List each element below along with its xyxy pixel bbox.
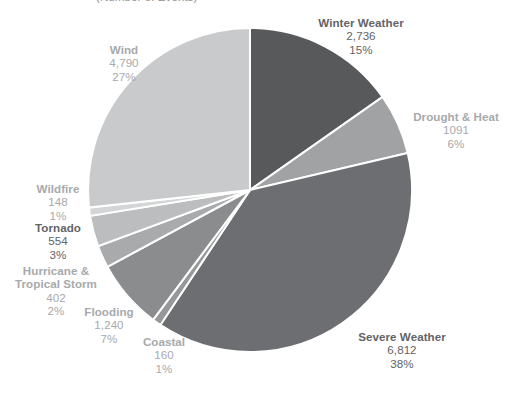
slice-label-hurricane-and-tropical-storm: Hurricane & Tropical Storm 402 2% [4, 264, 108, 318]
slice-label-percent: 2% [4, 304, 108, 317]
slice-label-wildfire: Wildfire 148 1% [18, 182, 98, 222]
slice-label-wind: Wind 4,790 27% [84, 43, 164, 83]
slice-label-value: 402 [4, 291, 108, 304]
slice-label-name: Drought & Heat [413, 110, 499, 123]
slice-label-name: Severe Weather [358, 330, 446, 343]
slice-label-percent: 1% [18, 209, 98, 222]
slice-label-tornado: Tornado 554 3% [18, 221, 98, 261]
slice-label-value: 4,790 [84, 56, 164, 69]
slice-label-name: Tornado [35, 221, 81, 234]
slice-label-value: 1,240 [70, 318, 148, 331]
slice-label-percent: 6% [400, 137, 512, 150]
slice-label-value: 148 [18, 195, 98, 208]
slice-label-drought-and-heat: Drought & Heat 1091 6% [400, 110, 512, 150]
slice-label-value: 1091 [400, 123, 512, 136]
slice-label-name: Coastal [143, 335, 185, 348]
slice-label-percent: 38% [338, 357, 466, 370]
slice-label-name: Wind [110, 43, 138, 56]
slice-label-percent: 7% [70, 332, 148, 345]
slice-label-value: 160 [112, 348, 216, 361]
slice-label-winter-weather: Winter Weather 2,736 15% [296, 16, 426, 56]
slice-label-value: 6,812 [338, 343, 466, 356]
slice-label-name: Wildfire [37, 182, 80, 195]
pie-chart-figure: (Number of Events) Winter Weather 2,736 … [0, 0, 515, 395]
slice-label-percent: 3% [18, 248, 98, 261]
slice-label-name-line2: Tropical Storm [4, 277, 108, 290]
slice-label-value: 2,736 [296, 29, 426, 42]
slice-label-name-line1: Hurricane & [23, 264, 89, 277]
slice-label-percent: 27% [84, 70, 164, 83]
slice-label-severe-weather: Severe Weather 6,812 38% [338, 330, 466, 370]
slice-label-name: Winter Weather [318, 16, 403, 29]
slice-label-value: 554 [18, 234, 98, 247]
slice-label-percent: 1% [112, 362, 216, 375]
slice-label-percent: 15% [296, 43, 426, 56]
